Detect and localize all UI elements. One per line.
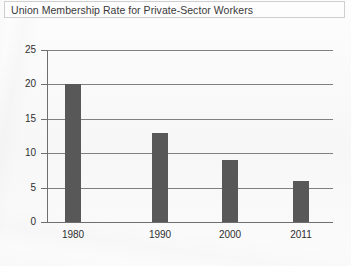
ytick-label-0: 0: [0, 217, 36, 227]
xtick-label-1980: 1980: [45, 230, 101, 240]
xtick-label-1990: 1990: [132, 230, 188, 240]
axis-x-baseline: [47, 222, 333, 223]
gridline-25: [47, 50, 333, 51]
xtick-label-2000: 2000: [202, 230, 258, 240]
tick-y-10: [41, 153, 47, 154]
gridline-20: [47, 84, 333, 85]
gridline-5: [47, 188, 333, 189]
tick-y-0: [41, 222, 47, 223]
gridline-15: [47, 119, 333, 120]
ytick-label-20: 20: [0, 79, 36, 89]
gridline-10: [47, 153, 333, 154]
chart-title-box: Union Membership Rate for Private-Sector…: [4, 1, 345, 18]
axis-y-line: [47, 50, 48, 223]
page-title: Union Membership Rate for Private-Sector…: [11, 4, 253, 16]
bar-chart: 25 20 15 10 5 0 1980 1990 2000 2011: [0, 18, 351, 266]
ytick-label-15: 15: [0, 114, 36, 124]
tick-y-20: [41, 84, 47, 85]
tick-y-15: [41, 119, 47, 120]
bar-2011: [293, 181, 309, 222]
tick-y-25: [41, 50, 47, 51]
ytick-label-10: 10: [0, 148, 36, 158]
xtick-label-2011: 2011: [273, 230, 329, 240]
ytick-label-5: 5: [0, 183, 36, 193]
bar-2000: [222, 160, 238, 222]
bar-1990: [152, 133, 168, 222]
tick-y-5: [41, 188, 47, 189]
bar-1980: [65, 84, 81, 222]
ytick-label-25: 25: [0, 45, 36, 55]
